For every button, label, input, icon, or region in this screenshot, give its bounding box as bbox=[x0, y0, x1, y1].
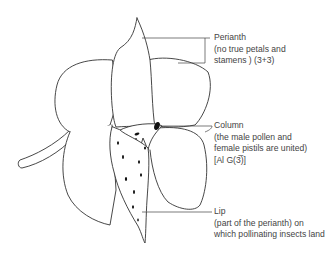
column-formula: [Al G(3̅)] bbox=[214, 155, 307, 167]
column-label: Column (the male pollen and female pisti… bbox=[214, 120, 307, 166]
left-upper-petal bbox=[55, 60, 118, 134]
perianth-desc-line-2: stamens ) (3+3) bbox=[214, 55, 286, 67]
column-desc-line-1: (the male pollen and bbox=[214, 132, 307, 144]
lip-desc-line-1: (part of the perianth) on bbox=[214, 218, 325, 230]
perianth-label: Perianth (no true petals and stamens ) (… bbox=[214, 32, 286, 67]
column-desc-line-2: female pistils are united) bbox=[214, 143, 307, 155]
column-title: Column bbox=[214, 120, 307, 132]
perianth-title: Perianth bbox=[214, 32, 286, 44]
dorsal-sepal bbox=[111, 18, 155, 127]
right-lower-petal bbox=[150, 128, 207, 210]
lip-desc-line-2: which pollinating insects land bbox=[214, 229, 325, 241]
right-upper-petal bbox=[148, 58, 210, 127]
lip-title: Lip bbox=[214, 206, 325, 218]
lip-label: Lip (part of the perianth) on which poll… bbox=[214, 206, 325, 241]
perianth-desc-line-1: (no true petals and bbox=[214, 44, 286, 56]
left-lower-petal bbox=[63, 125, 116, 225]
